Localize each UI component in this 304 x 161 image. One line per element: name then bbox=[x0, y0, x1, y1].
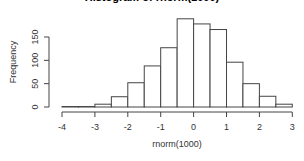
x-tick-label: -1 bbox=[157, 122, 165, 132]
x-tick-label: 1 bbox=[224, 122, 229, 132]
histogram-bar bbox=[177, 19, 193, 107]
histogram-bar bbox=[227, 62, 243, 107]
histogram-bar bbox=[210, 30, 226, 107]
histogram-bar bbox=[161, 48, 177, 107]
x-tick-label: -2 bbox=[124, 122, 132, 132]
histogram-bar bbox=[111, 97, 127, 107]
y-tick-label: 150 bbox=[30, 29, 40, 44]
histogram-bar bbox=[95, 104, 111, 107]
x-tick-label: 2 bbox=[257, 122, 262, 132]
x-axis: -4-3-2-10123 bbox=[58, 112, 295, 132]
histogram-bar bbox=[128, 83, 144, 107]
x-tick-label: 0 bbox=[191, 122, 196, 132]
y-tick-label: 0 bbox=[30, 104, 40, 109]
x-tick-label: 3 bbox=[290, 122, 295, 132]
histogram-bar bbox=[194, 24, 210, 107]
histogram-bar bbox=[276, 104, 292, 107]
y-tick-label: 100 bbox=[30, 53, 40, 68]
y-tick-label: 50 bbox=[30, 79, 40, 89]
histogram-bar bbox=[144, 66, 160, 107]
histogram-bar bbox=[243, 84, 259, 107]
histogram-bar bbox=[259, 96, 275, 107]
y-axis: 050100150 bbox=[30, 29, 49, 109]
histogram-plot: 050100150 -4-3-2-10123 bbox=[0, 0, 304, 161]
histogram-bars bbox=[62, 19, 292, 107]
x-tick-label: -4 bbox=[58, 122, 66, 132]
x-tick-label: -3 bbox=[91, 122, 99, 132]
